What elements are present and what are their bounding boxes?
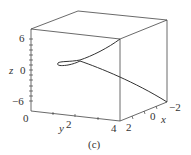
x-axis-line: [120, 102, 167, 121]
y-tick-0: 0: [23, 112, 29, 124]
z-axis-label: z: [8, 64, 14, 76]
x-tick-0: 0: [150, 110, 156, 122]
y-axis-line: [31, 111, 120, 121]
x-tick-neg2: −2: [169, 101, 181, 113]
space-curve: [58, 39, 167, 102]
y-tick-4: 4: [111, 122, 117, 134]
box-top-left-edge: [31, 11, 78, 29]
z-tick-neg6: −6: [12, 95, 24, 107]
y-tick-2: 2: [66, 118, 72, 130]
x-tick-2: 2: [126, 121, 132, 133]
box-top-right-edge: [120, 20, 167, 39]
bounding-box: [31, 11, 167, 121]
z-tick-0: 0: [20, 64, 26, 76]
z-tick-6: 6: [19, 32, 25, 44]
box-top-back-edge: [78, 11, 167, 20]
x-axis-label: x: [160, 113, 166, 125]
figure-caption: (c): [88, 138, 101, 151]
box-top-front-edge: [31, 29, 120, 39]
3d-curve-plot: 6 0 −6 z 0 2 4 y 2 0 −2 x (c): [0, 0, 191, 155]
y-axis-label: y: [58, 122, 64, 134]
